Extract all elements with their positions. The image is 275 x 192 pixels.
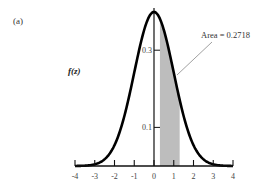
x-tick-label: -4 xyxy=(72,172,79,181)
y-tick-label: 0.3 xyxy=(142,46,152,55)
x-tick-label: 1 xyxy=(172,172,176,181)
x-tick-label: 2 xyxy=(192,172,196,181)
annotation-arrow xyxy=(177,42,212,75)
x-tick-label: -3 xyxy=(91,172,98,181)
y-tick-label: 0.1 xyxy=(142,123,152,132)
x-tick-label: -2 xyxy=(111,172,118,181)
area-annotation: Area = 0.2718 xyxy=(201,30,250,40)
x-tick-label: 3 xyxy=(211,172,215,181)
normal-distribution-chart: 0.10.3-4-3-2-101234Area = 0.2718 xyxy=(0,0,275,192)
x-tick-label: 0 xyxy=(152,172,156,181)
x-tick-label: 4 xyxy=(231,172,235,181)
x-tick-label: -1 xyxy=(131,172,138,181)
